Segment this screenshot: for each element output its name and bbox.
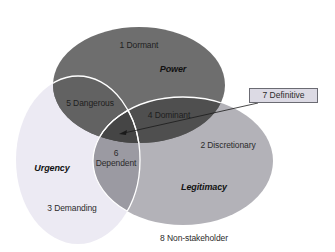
region-2-discretionary: 2 Discretionary xyxy=(200,140,255,150)
set-label-legitimacy: Legitimacy xyxy=(181,182,227,192)
set-label-urgency: Urgency xyxy=(34,163,69,173)
set-label-power: Power xyxy=(160,64,187,74)
region-4-dominant: 4 Dominant xyxy=(148,110,190,120)
region-3-demanding: 3 Demanding xyxy=(47,203,96,213)
region-5-dangerous: 5 Dangerous xyxy=(66,98,114,108)
definitive-callout-box: 7 Definitive xyxy=(249,88,318,103)
stakeholder-venn-diagram xyxy=(0,0,335,252)
region-6-number: 6 xyxy=(114,148,119,158)
region-6-dependent: Dependent xyxy=(96,158,137,168)
region-7-definitive: 7 Definitive xyxy=(262,90,304,100)
region-8-non-stakeholder: 8 Non-stakeholder xyxy=(160,233,228,243)
region-1-dormant: 1 Dormant xyxy=(120,40,159,50)
